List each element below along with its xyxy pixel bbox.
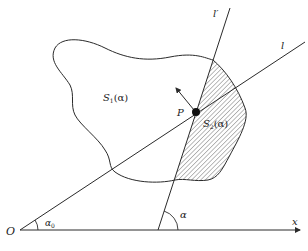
label-point-p: P bbox=[176, 107, 184, 118]
label-angle-alpha0: α0 bbox=[45, 218, 55, 229]
point-p-dot bbox=[192, 108, 200, 116]
label-origin: O bbox=[6, 225, 15, 238]
angle-alpha0-arc bbox=[35, 220, 38, 230]
svg-text:α0: α0 bbox=[45, 218, 55, 229]
label-line-l-prime: l′ bbox=[213, 8, 219, 19]
label-region-s1: S1(α) bbox=[103, 92, 128, 104]
region-s2-hatched bbox=[53, 40, 246, 182]
svg-text:S1(α): S1(α) bbox=[103, 92, 128, 104]
diagram-figure: O x l l′ P S1(α) S2(α) α0 α bbox=[0, 0, 308, 251]
svg-text:S2(α): S2(α) bbox=[203, 118, 228, 130]
label-region-s2: S2(α) bbox=[203, 118, 228, 130]
label-line-l: l bbox=[281, 40, 284, 51]
line-l bbox=[20, 42, 305, 230]
label-angle-alpha: α bbox=[180, 209, 187, 220]
angle-alpha-arc bbox=[164, 211, 178, 230]
label-x-axis: x bbox=[292, 216, 298, 227]
